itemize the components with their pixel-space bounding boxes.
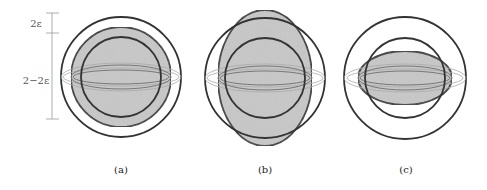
scale-label-2eps: 2ε — [30, 18, 42, 29]
panel-c — [344, 17, 466, 139]
scale-bar: 2ε 2−2ε — [23, 13, 59, 119]
caption-a: (a) — [114, 164, 128, 175]
caption-c: (c) — [399, 164, 413, 175]
ellipsoid-diagram: 2ε 2−2ε (a) (b) (c) — [0, 0, 487, 190]
filled-sphere — [71, 27, 171, 127]
caption-b: (b) — [258, 164, 272, 175]
filled-oblate-ellipsoid — [358, 51, 452, 105]
panel-b — [205, 10, 325, 146]
panel-a — [61, 17, 181, 137]
scale-label-2-minus-2eps: 2−2ε — [23, 75, 49, 86]
filled-prolate-ellipsoid — [218, 10, 312, 146]
